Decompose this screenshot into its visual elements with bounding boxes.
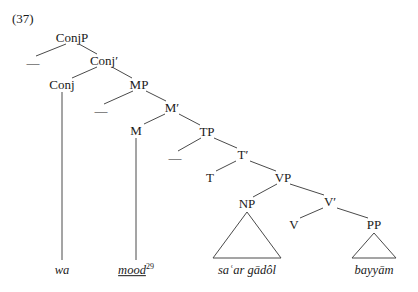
terminal-label-saar: saʿar gādôl bbox=[218, 263, 276, 277]
np-triangle bbox=[213, 212, 281, 258]
tree-edge-conjbar-conj bbox=[72, 67, 97, 78]
tree-node-tp: TP bbox=[199, 125, 214, 138]
tree-edge-mp-spec bbox=[104, 91, 133, 104]
tree-node-conjp: ConjP bbox=[56, 31, 89, 44]
tree-edge-vp-vbar bbox=[290, 184, 324, 195]
tree-node-mp: MP bbox=[130, 78, 149, 91]
empty-specifier-spec-mp: — bbox=[95, 104, 108, 117]
terminal-saar: saʿar gādôl bbox=[218, 264, 276, 277]
tree-edge-vbar-v bbox=[300, 208, 323, 218]
empty-specifier-spec-tp: — bbox=[169, 151, 182, 164]
tree-node-vp: VP bbox=[275, 171, 292, 184]
tree-edge-tbar-vp bbox=[250, 161, 276, 171]
terminal-label-wa: wa bbox=[55, 263, 70, 277]
tree-node-np: NP bbox=[239, 197, 256, 210]
tree-edge-mbar-m bbox=[144, 114, 165, 124]
tree-edge-conjp-spec bbox=[36, 44, 66, 56]
terminal-wa: wa bbox=[55, 264, 70, 277]
terminal-mood: mood29 bbox=[118, 263, 154, 277]
footnote-marker-mood: 29 bbox=[146, 263, 154, 271]
pp-triangle bbox=[352, 233, 396, 258]
tree-edge-mbar-tp bbox=[179, 114, 200, 125]
tree-node-pp: PP bbox=[367, 218, 381, 231]
terminal-label-bayyam: bayyām bbox=[355, 263, 394, 277]
terminal-label-mood: mood bbox=[118, 263, 146, 277]
terminal-bayyam: bayyām bbox=[355, 264, 394, 277]
tree-node-t: T bbox=[206, 171, 214, 184]
tree-edge-vp-np bbox=[253, 184, 277, 197]
tree-node-tbar: T′ bbox=[238, 148, 249, 161]
tree-node-vbar: V′ bbox=[324, 195, 336, 208]
tree-node-mbar: M′ bbox=[165, 101, 179, 114]
tree-node-conjbar: Conj′ bbox=[90, 54, 118, 67]
tree-node-conj: Conj bbox=[49, 78, 74, 91]
tree-node-v: V bbox=[289, 218, 298, 231]
empty-specifier-spec-conjp: — bbox=[27, 56, 40, 69]
tree-edge-tp-tbar bbox=[214, 138, 237, 148]
tree-node-m: M bbox=[130, 124, 142, 137]
tree-edge-tbar-t bbox=[216, 161, 236, 171]
tree-edge-vbar-pp bbox=[337, 208, 368, 218]
tree-edge-mp-mbar bbox=[146, 91, 166, 101]
